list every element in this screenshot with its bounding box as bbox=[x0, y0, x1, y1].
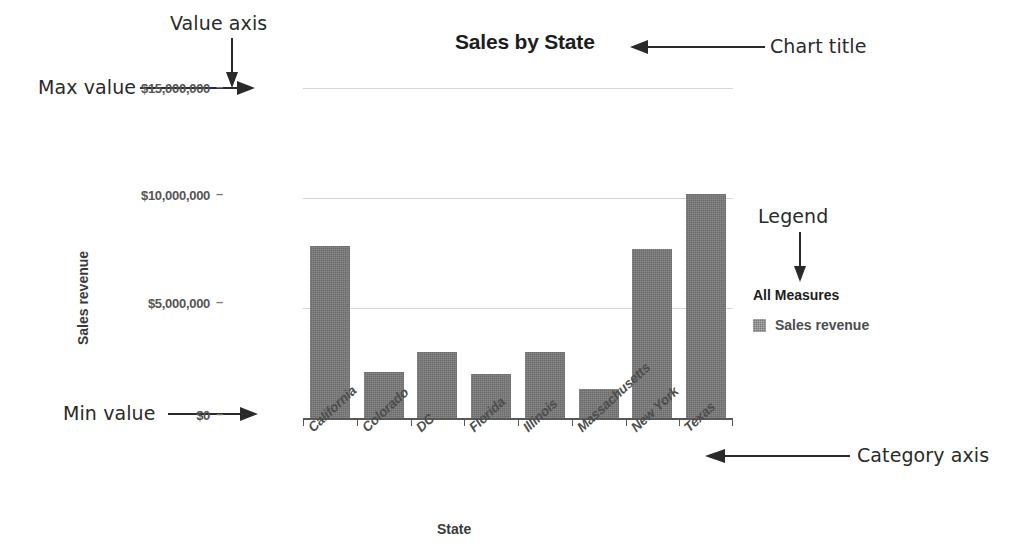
xaxis-title: State bbox=[437, 521, 471, 537]
bar-slot-illinois bbox=[518, 88, 572, 418]
annotation-chart-title-arrow bbox=[630, 38, 765, 56]
plot-area bbox=[303, 88, 733, 418]
bar-group bbox=[303, 88, 733, 418]
ytick-label-5m: $5,000,000 bbox=[100, 296, 210, 311]
legend-title: All Measures bbox=[753, 287, 869, 303]
ytick-mark-15m: – bbox=[216, 79, 223, 94]
legend: All Measures Sales revenue bbox=[753, 287, 869, 333]
bar-slot-florida bbox=[464, 88, 518, 418]
annotation-chart-title: Chart title bbox=[770, 35, 867, 57]
yaxis-title: Sales revenue bbox=[75, 208, 91, 388]
bar-texas[interactable] bbox=[686, 194, 726, 418]
ytick-mark-5m: – bbox=[216, 294, 223, 309]
ytick-label-10m: $10,000,000 bbox=[100, 188, 210, 203]
bar-slot-dc bbox=[411, 88, 465, 418]
legend-item-sales-revenue[interactable]: Sales revenue bbox=[753, 317, 869, 333]
chart-title: Sales by State bbox=[455, 30, 595, 54]
ytick-label-15m: $15,000,000 bbox=[100, 81, 210, 96]
annotation-category-axis: Category axis bbox=[857, 444, 989, 466]
annotation-legend-arrow bbox=[790, 232, 810, 282]
legend-swatch-icon bbox=[753, 319, 766, 332]
annotation-value-axis: Value axis bbox=[170, 12, 267, 34]
annotation-legend: Legend bbox=[758, 205, 828, 227]
bar-slot-massachusetts bbox=[572, 88, 626, 418]
bar-dc[interactable] bbox=[417, 352, 457, 418]
bar-slot-california bbox=[303, 88, 357, 418]
ytick-label-0: $0 bbox=[100, 408, 210, 423]
ytick-mark-10m: – bbox=[216, 186, 223, 201]
legend-item-label: Sales revenue bbox=[775, 317, 869, 333]
bar-slot-texas bbox=[679, 88, 733, 418]
annotation-category-axis-arrow bbox=[705, 447, 850, 465]
category-axis-labels: CaliforniaColoradoDCFloridaIllinoisMassa… bbox=[303, 424, 733, 514]
bar-slot-colorado bbox=[357, 88, 411, 418]
ytick-mark-0: – bbox=[216, 406, 223, 421]
chart-canvas: Value axis Sales by State Chart title Ma… bbox=[0, 0, 1021, 557]
